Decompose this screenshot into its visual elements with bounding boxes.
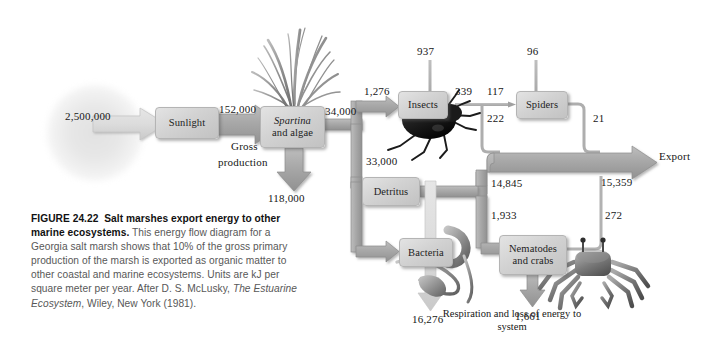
label-to-detritus: 33,000 (366, 155, 397, 167)
node-spiders-label: Spiders (526, 99, 558, 111)
label-solar-input: 2,500,000 (65, 110, 111, 122)
label-to-insects: 1,276 (364, 85, 390, 97)
label-gross-production-line2: production (218, 156, 268, 168)
figure-caption: FIGURE 24.22 Salt marshes export energy … (31, 212, 309, 311)
label-detritus-to-export: 14,845 (491, 177, 522, 189)
node-insects[interactable]: Insects (398, 91, 448, 119)
node-spartina-label: Spartina (274, 115, 311, 127)
label-total-export: 15,359 (601, 176, 632, 188)
respiration-note: Respiration and loss of energy to system (432, 307, 592, 333)
node-crabs-label: and crabs (513, 255, 554, 267)
label-gross-production-value: 152,000 (219, 103, 256, 115)
figure-number: FIGURE 24.22 (31, 213, 98, 224)
node-nematodes-and-crabs[interactable]: Nematodes and crabs (499, 235, 567, 275)
node-spiders[interactable]: Spiders (516, 91, 568, 119)
node-bacteria[interactable]: Bacteria (399, 238, 453, 267)
label-insects-output: 339 (455, 85, 472, 97)
label-gross-production-line1: Gross (231, 140, 258, 152)
label-spider-respiration: 96 (527, 45, 538, 57)
label-spartina-output: 34,000 (325, 105, 356, 117)
figure-canvas: Sunlight Spartina and algae Insects Spid… (0, 0, 702, 363)
node-bacteria-label: Bacteria (408, 247, 444, 259)
node-nematodes-label: Nematodes (509, 243, 557, 255)
label-insect-respiration: 937 (417, 45, 434, 57)
label-spiders-output: 21 (593, 112, 604, 124)
node-insects-label: Insects (408, 99, 438, 111)
label-nematodes-output: 272 (605, 209, 622, 221)
figure-source-rest: , Wiley, New York (1981). (81, 298, 196, 309)
label-export-terminal: Export (659, 150, 690, 162)
spartina-grass-illustration (252, 28, 340, 112)
node-detritus-label: Detritus (374, 186, 409, 198)
node-sunlight[interactable]: Sunlight (155, 107, 219, 139)
node-detritus[interactable]: Detritus (362, 177, 420, 206)
node-sunlight-label: Sunlight (169, 117, 205, 129)
label-detritus-to-nematodes: 1,933 (491, 209, 517, 221)
node-spartina-and-algae[interactable]: Spartina and algae (260, 106, 325, 148)
label-insects-to-spiders: 117 (487, 85, 504, 97)
label-spartina-respiration: 118,000 (268, 192, 305, 204)
node-algae-label: and algae (272, 127, 313, 139)
label-insects-to-export: 222 (487, 112, 504, 124)
